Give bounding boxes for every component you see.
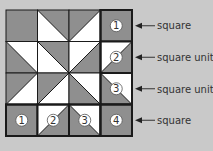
svg-text:1: 1 — [19, 115, 25, 126]
arrow-icon — [135, 86, 155, 92]
annotation-label-square-2: square — [157, 116, 191, 126]
quilt-cell — [38, 42, 70, 74]
quilt-cell — [6, 73, 38, 105]
quilt-cell: 4 — [101, 105, 133, 137]
svg-text:3: 3 — [82, 115, 88, 126]
arrow-icon — [135, 117, 155, 123]
quilt-cell — [6, 42, 38, 74]
quilt-cell: 1 — [101, 10, 133, 42]
annotation-label-square-1: square — [157, 21, 191, 31]
quilt-cell: 2 — [38, 105, 70, 137]
svg-text:1: 1 — [113, 20, 119, 31]
quilt-cell: 3 — [69, 105, 101, 137]
svg-text:4: 4 — [113, 115, 119, 126]
quilt-cell: 3 — [101, 73, 133, 105]
quilt-cell — [69, 42, 101, 74]
svg-text:3: 3 — [113, 83, 119, 94]
quilt-cell — [69, 10, 101, 42]
svg-text:2: 2 — [113, 52, 119, 63]
svg-text:2: 2 — [50, 115, 56, 126]
quilt-cell: 1 — [6, 105, 38, 137]
quilt-cell: 2 — [101, 42, 133, 74]
annotation-label-square-unit-2: square unit — [157, 85, 213, 95]
annotation-label-square-unit-1: square unit — [157, 53, 213, 63]
arrow-icon — [135, 23, 155, 29]
quilt-cell — [69, 73, 101, 105]
quilt-cell — [6, 10, 38, 42]
arrow-icon — [135, 54, 155, 60]
quilt-cell — [38, 73, 70, 105]
quilt-cell — [38, 10, 70, 42]
